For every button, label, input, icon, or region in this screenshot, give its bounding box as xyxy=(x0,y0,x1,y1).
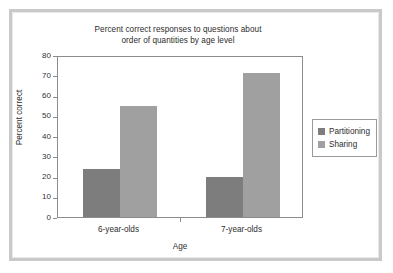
legend-item-label: Sharing xyxy=(329,140,357,149)
plot-inner-bars xyxy=(58,57,302,217)
chart-title-line-2: order of quantities by age level xyxy=(44,35,312,46)
bar-partitioning-6-year-olds xyxy=(83,169,120,217)
y-axis-tick-label: 40 xyxy=(42,132,51,141)
chart-title-line-1: Percent correct responses to questions a… xyxy=(44,24,312,35)
figure-canvas: Percent correct responses to questions a… xyxy=(0,0,393,273)
y-axis-tick-label: 20 xyxy=(42,172,51,181)
y-axis-tick-label: 70 xyxy=(42,71,51,80)
legend-item-label: Partitioning xyxy=(329,127,370,136)
legend: PartitioningSharing xyxy=(312,119,377,157)
y-axis: 01020304050607080 xyxy=(0,56,57,218)
x-axis-title: Age xyxy=(57,242,303,251)
x-axis-tick-mark xyxy=(180,218,181,222)
bar-sharing-6-year-olds xyxy=(120,106,157,217)
x-axis-tick-label: 6-year-olds xyxy=(98,225,139,234)
y-axis-tick-label: 50 xyxy=(42,111,51,120)
plot-area xyxy=(57,56,303,218)
y-axis-tick-label: 30 xyxy=(42,152,51,161)
legend-item-sharing: Sharing xyxy=(318,138,370,151)
y-axis-title: Percent correct xyxy=(15,73,24,163)
legend-item-partitioning: Partitioning xyxy=(318,125,370,138)
legend-swatch-icon xyxy=(318,128,325,135)
legend-swatch-icon xyxy=(318,141,325,148)
y-axis-tick-label: 10 xyxy=(42,192,51,201)
y-axis-tick-label: 0 xyxy=(47,213,51,222)
chart-title: Percent correct responses to questions a… xyxy=(44,24,312,46)
x-axis: Age 6-year-olds7-year-olds xyxy=(57,218,303,258)
y-axis-tick-label: 80 xyxy=(42,51,51,60)
x-axis-tick-label: 7-year-olds xyxy=(221,225,262,234)
bar-sharing-7-year-olds xyxy=(243,73,280,217)
y-axis-tick-label: 60 xyxy=(42,91,51,100)
bar-partitioning-7-year-olds xyxy=(206,177,243,218)
